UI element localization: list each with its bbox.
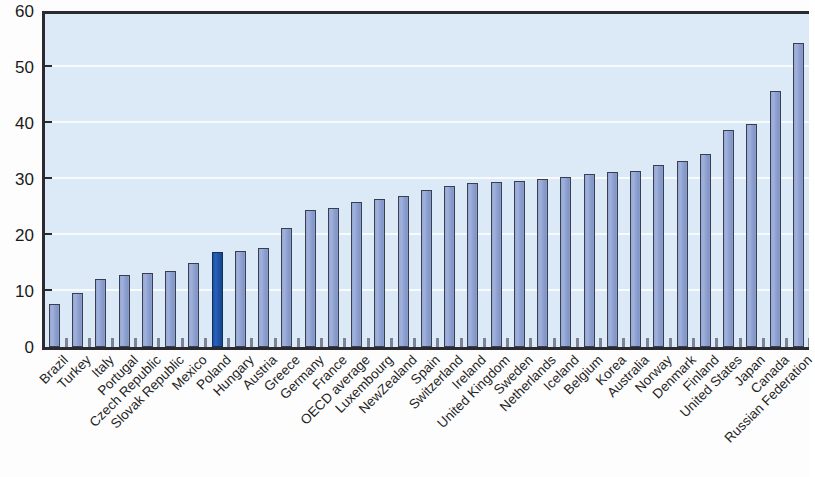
x-axis-tick-4 xyxy=(157,338,160,347)
x-axis-tick-14 xyxy=(390,338,393,347)
bar-belgium xyxy=(584,174,595,347)
bar-poland xyxy=(212,252,223,347)
x-axis-tick-9 xyxy=(274,338,277,347)
x-axis-tick-29 xyxy=(739,338,742,347)
y-tick-label-30: 30 xyxy=(15,171,34,188)
bar-ireland xyxy=(467,183,478,347)
x-axis-tick-17 xyxy=(460,338,463,347)
x-axis-tick-11 xyxy=(320,338,323,347)
x-axis-tick-24 xyxy=(622,338,625,347)
x-axis-tick-12 xyxy=(343,338,346,347)
bar-finland xyxy=(700,154,711,347)
bar-germany xyxy=(305,210,316,347)
bar-austria xyxy=(258,248,269,347)
x-axis-tick-32 xyxy=(808,338,809,347)
x-axis-tick-27 xyxy=(692,338,695,347)
x-axis-tick-30 xyxy=(762,338,765,347)
y-tick-label-0: 0 xyxy=(25,339,34,356)
bar-united-states xyxy=(723,130,734,347)
x-axis-tick-25 xyxy=(646,338,649,347)
x-axis-tick-21 xyxy=(553,338,556,347)
bar-italy xyxy=(95,279,106,347)
bar-brazil xyxy=(49,304,60,347)
bar-sweden xyxy=(514,181,525,347)
x-axis-tick-18 xyxy=(483,338,486,347)
x-axis-tick-7 xyxy=(227,338,230,347)
y-axis: 0102030405060 xyxy=(0,0,42,360)
x-axis-tick-5 xyxy=(181,338,184,347)
bar-turkey xyxy=(72,293,83,347)
bar-mexico xyxy=(188,263,199,347)
x-axis-tick-10 xyxy=(297,338,300,347)
x-axis-tick-3 xyxy=(134,338,137,347)
bar-russian-federation xyxy=(793,43,804,347)
x-axis-tick-22 xyxy=(576,338,579,347)
bar-united-kingdom xyxy=(491,182,502,347)
x-axis-tick-28 xyxy=(715,338,718,347)
x-axis-tick-23 xyxy=(599,338,602,347)
x-axis-tick-31 xyxy=(785,338,788,347)
bars-layer xyxy=(45,14,809,347)
x-axis-tick-8 xyxy=(250,338,253,347)
bar-czech-republic xyxy=(142,273,153,347)
bar-spain xyxy=(421,190,432,347)
bar-japan xyxy=(746,124,757,347)
bar-iceland xyxy=(560,177,571,347)
x-axis-tick-13 xyxy=(367,338,370,347)
x-axis-tick-2 xyxy=(111,338,114,347)
y-tick-label-20: 20 xyxy=(15,227,34,244)
x-axis-tick-15 xyxy=(413,338,416,347)
bar-oecd-average xyxy=(351,202,362,347)
y-tick-label-10: 10 xyxy=(15,283,34,300)
bar-slovak-republic xyxy=(165,271,176,347)
x-axis-labels: BrazilTurkeyItalyPortugalCzech RepublicS… xyxy=(42,353,809,477)
x-axis-tick-1 xyxy=(88,338,91,347)
bar-luxembourg xyxy=(374,199,385,347)
y-tick-label-40: 40 xyxy=(15,115,34,132)
x-axis-tick-6 xyxy=(204,338,207,347)
bar-denmark xyxy=(677,161,688,347)
x-axis-tick-26 xyxy=(669,338,672,347)
bar-australia xyxy=(630,171,641,347)
x-axis-tick-0 xyxy=(65,338,68,347)
bar-norway xyxy=(653,165,664,347)
bar-canada xyxy=(770,91,781,347)
bar-france xyxy=(328,208,339,347)
bar-newzealand xyxy=(398,196,409,347)
y-tick-label-60: 60 xyxy=(15,3,34,20)
y-tick-label-50: 50 xyxy=(15,59,34,76)
x-axis-tick-19 xyxy=(506,338,509,347)
plot-area xyxy=(42,11,809,350)
bar-netherlands xyxy=(537,179,548,347)
bar-hungary xyxy=(235,251,246,347)
bar-greece xyxy=(281,228,292,347)
bar-portugal xyxy=(119,275,130,347)
bar-korea xyxy=(607,172,618,347)
x-axis-tick-20 xyxy=(529,338,532,347)
bar-switzerland xyxy=(444,186,455,347)
x-axis-tick-16 xyxy=(436,338,439,347)
